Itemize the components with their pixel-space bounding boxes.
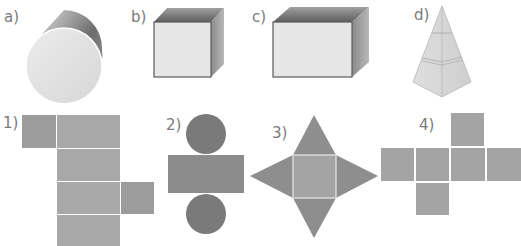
solid-a-cylinder: a) <box>4 8 102 104</box>
net-1-cuboid: 1) <box>3 114 154 246</box>
solid-b-cube: b) <box>131 8 224 77</box>
label-d: d) <box>414 6 429 24</box>
solids-and-nets-diagram: a) b) c) d) 1) 2) <box>0 0 521 246</box>
cylinder-front-face <box>26 28 102 104</box>
net-triangle <box>336 155 378 198</box>
net-face <box>451 148 485 181</box>
net-circle-bottom <box>186 194 226 234</box>
net-face <box>416 148 449 181</box>
cuboid-front-face <box>273 22 352 77</box>
net-face <box>57 215 120 246</box>
label-a: a) <box>4 8 19 26</box>
net-rectangle <box>168 155 244 193</box>
net-face <box>381 148 414 181</box>
cube-front-face <box>154 22 211 77</box>
net-4-cube: 4) <box>381 113 521 215</box>
net-face <box>416 183 449 215</box>
net-face <box>121 182 154 214</box>
label-c: c) <box>252 8 266 26</box>
net-square-base <box>293 155 336 198</box>
net-face <box>487 148 521 181</box>
solid-d-pyramid: d) <box>413 6 471 97</box>
net-triangle <box>293 115 336 155</box>
net-triangle <box>250 155 293 198</box>
label-4: 4) <box>419 116 434 134</box>
net-face <box>57 182 120 214</box>
label-2: 2) <box>166 116 181 134</box>
net-triangle <box>293 198 336 238</box>
net-face <box>22 115 56 148</box>
net-face <box>57 149 120 181</box>
net-3-pyramid: 3) <box>250 115 378 238</box>
solid-c-cuboid: c) <box>252 7 369 77</box>
net-face <box>451 113 484 146</box>
net-circle-top <box>186 114 226 154</box>
label-3: 3) <box>272 124 287 142</box>
label-1: 1) <box>3 114 18 132</box>
net-2-cylinder: 2) <box>166 114 244 234</box>
label-b: b) <box>131 8 146 26</box>
net-face <box>57 115 120 148</box>
